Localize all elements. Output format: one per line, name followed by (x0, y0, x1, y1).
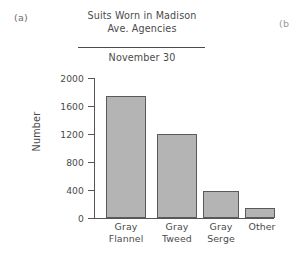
bar-other (245, 208, 275, 218)
y-tick-1200 (88, 134, 94, 135)
y-axis-label: Number (31, 92, 42, 172)
y-tick-label-2000: 2000 (50, 73, 84, 84)
y-tick-1600 (88, 106, 94, 107)
y-tick-label-800: 800 (50, 157, 84, 168)
x-tick-label-other-line-1: Other (238, 221, 286, 233)
y-tick-2000 (88, 78, 94, 79)
x-tick-label-gray-flannel-line-1: Gray (96, 221, 156, 233)
x-tick-label-gray-flannel-line-2: Flannel (96, 233, 156, 245)
y-tick-label-0: 0 (50, 213, 84, 224)
bar-gray-tweed (157, 134, 197, 218)
y-tick-800 (88, 162, 94, 163)
y-tick-label-1600: 1600 (50, 101, 84, 112)
x-tick-label-gray-serge-line-2: Serge (194, 233, 248, 245)
y-tick-label-1200: 1200 (50, 129, 84, 140)
y-tick-0 (88, 218, 94, 219)
bar-gray-serge (203, 191, 239, 218)
bar-gray-flannel (106, 96, 146, 219)
x-tick-label-other: Other (238, 221, 286, 233)
figure-panel-a: (a) (b Suits Worn in Madison Ave. Agenci… (0, 0, 294, 261)
y-axis-spine (94, 78, 95, 219)
x-axis-spine (94, 218, 274, 219)
plot-area: Number 0 400 800 1200 1600 2000 Gray Fla… (0, 0, 294, 261)
x-tick-label-gray-flannel: Gray Flannel (96, 221, 156, 245)
y-tick-label-400: 400 (50, 185, 84, 196)
y-tick-400 (88, 190, 94, 191)
